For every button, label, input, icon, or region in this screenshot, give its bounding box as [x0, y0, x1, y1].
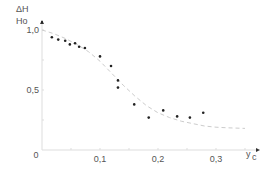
fit-line [42, 30, 245, 128]
data-point [147, 116, 150, 119]
axis-labels: 0,10,20,30,51,00ΔHHoyc [16, 4, 257, 164]
data-point [74, 42, 77, 45]
data-point [202, 112, 205, 115]
data-point [99, 55, 102, 58]
data-point [57, 38, 60, 41]
y-tick-label: 0,5 [26, 85, 39, 95]
y-label-top: ΔH [16, 4, 29, 14]
data-point [189, 116, 192, 119]
data-points [41, 21, 205, 119]
data-point [162, 109, 165, 112]
plot-area: 0,10,20,30,51,00ΔHHoyc [0, 0, 275, 170]
data-point [78, 46, 81, 49]
chart: 0,10,20,30,51,00ΔHHoyc [0, 0, 275, 170]
x-label-subscript: c [252, 152, 257, 162]
data-point [176, 115, 179, 118]
data-point [69, 43, 72, 46]
fit-curve [42, 30, 245, 128]
y-tick-label: 1,0 [26, 25, 39, 35]
axes [40, 20, 260, 152]
x-tick-label: 0,1 [94, 154, 107, 164]
x-tick-label: 0,3 [210, 154, 223, 164]
x-tick-label: 0,2 [152, 154, 165, 164]
data-point [64, 40, 67, 43]
y-label-bottom: Ho [16, 16, 28, 26]
data-point [84, 47, 87, 50]
data-point [117, 86, 120, 89]
data-point [117, 79, 120, 82]
data-point [133, 103, 136, 106]
data-point [110, 65, 113, 68]
origin-label: 0 [33, 150, 38, 160]
x-axis-arrow-icon [256, 148, 260, 152]
x-label: y [246, 149, 251, 159]
data-point [51, 36, 54, 39]
axis-top-marker [41, 21, 43, 23]
